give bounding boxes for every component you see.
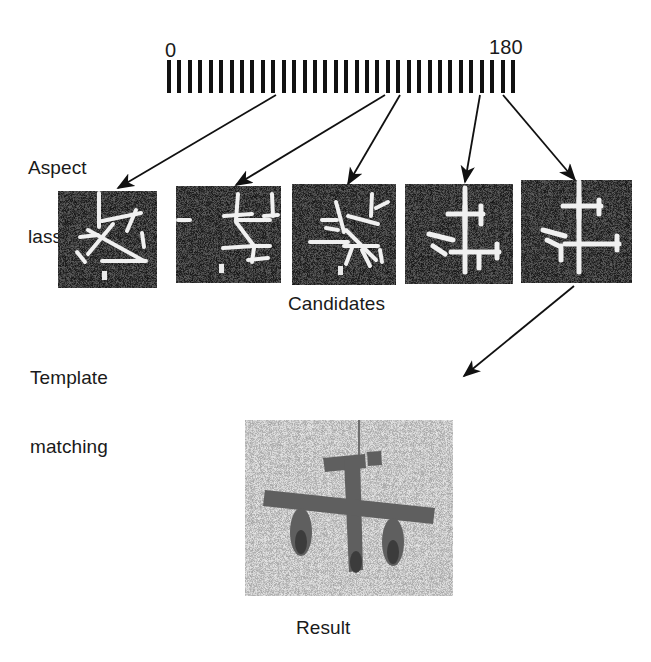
- scale-tick: [459, 60, 463, 93]
- candidate-features-3: [292, 184, 396, 285]
- scale-tick: [209, 60, 213, 93]
- candidates-label: Candidates: [288, 292, 385, 315]
- scale-max-label: 180: [489, 37, 523, 57]
- scale-tick: [407, 60, 411, 93]
- arrow-scale-to-candidate-1: [118, 95, 276, 188]
- scale-tick: [271, 60, 275, 93]
- scale-tick: [386, 60, 390, 93]
- scale-tick: [438, 60, 442, 93]
- result-label: Result: [296, 616, 350, 639]
- scale-tick: [344, 60, 348, 93]
- candidate-thumbnail-4: [405, 184, 513, 284]
- arrow-scale-to-candidate-3: [348, 95, 400, 184]
- aircraft-silhouette-icon: [245, 420, 453, 596]
- scale-tick: [282, 60, 286, 93]
- scale-tick: [230, 60, 234, 93]
- arrow-scale-to-candidate-4: [465, 95, 480, 182]
- candidate-thumbnail-2: [176, 186, 281, 283]
- scale-tick: [323, 60, 327, 93]
- scale-tick: [480, 60, 484, 93]
- scale-tick: [334, 60, 338, 93]
- scale-tick: [511, 60, 515, 93]
- template-matching-line-1: Template: [30, 366, 108, 389]
- scale-tick: [292, 60, 296, 93]
- aspect-classification-figure: 0 180 Aspect lassification Template matc…: [0, 0, 651, 662]
- arrow-scale-to-candidate-5: [503, 95, 575, 180]
- arrow-scale-to-candidate-2: [236, 95, 385, 185]
- candidate-thumbnail-3: [292, 184, 396, 285]
- candidate-features-4: [405, 184, 513, 284]
- aspect-angle-scale: [167, 60, 515, 93]
- scale-tick: [188, 60, 192, 93]
- candidate-thumbnail-1: [58, 191, 157, 288]
- aspect-classification-line-1: Aspect: [28, 156, 128, 179]
- scale-tick: [240, 60, 244, 93]
- scale-tick: [261, 60, 265, 93]
- scale-tick: [417, 60, 421, 93]
- scale-tick: [219, 60, 223, 93]
- scale-tick: [448, 60, 452, 93]
- scale-tick: [177, 60, 181, 93]
- scale-min-label: 0: [165, 40, 176, 60]
- scale-tick: [355, 60, 359, 93]
- scale-tick: [396, 60, 400, 93]
- scale-tick: [198, 60, 202, 93]
- template-matching-label: Template matching: [30, 320, 108, 504]
- scale-tick: [375, 60, 379, 93]
- scale-tick: [501, 60, 505, 93]
- scale-tick: [469, 60, 473, 93]
- scale-tick: [313, 60, 317, 93]
- scale-tick: [490, 60, 494, 93]
- scale-tick: [428, 60, 432, 93]
- result-image: [245, 420, 453, 596]
- template-matching-line-2: matching: [30, 435, 108, 458]
- scale-tick: [303, 60, 307, 93]
- candidate-thumbnail-5: [521, 180, 632, 283]
- candidate-features-5: [521, 180, 632, 283]
- candidate-features-1: [58, 191, 157, 288]
- scale-tick: [167, 60, 171, 93]
- candidate-features-2: [176, 186, 281, 283]
- scale-tick: [250, 60, 254, 93]
- arrow-candidate-to-result: [464, 286, 574, 376]
- scale-tick: [365, 60, 369, 93]
